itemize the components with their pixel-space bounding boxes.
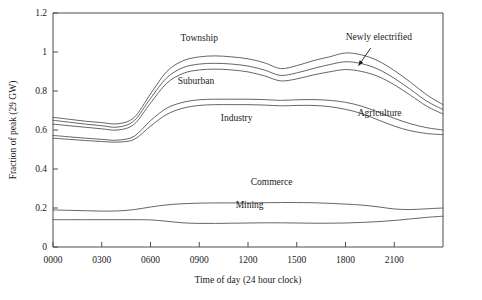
y-tick-label: 0.6	[35, 125, 47, 135]
y-tick-label: 0.2	[35, 203, 47, 213]
x-tick-label: 1500	[287, 255, 306, 265]
x-tick-label: 0300	[92, 255, 111, 265]
series-annotations: TownshipSuburbanIndustryNewly electrifie…	[178, 32, 412, 210]
x-tick-label: 2100	[385, 255, 404, 265]
x-axis-tick-labels: 00000300060009001200150018002100	[44, 255, 405, 265]
y-tick-label: 0.8	[35, 86, 47, 96]
series-label-industry: Industry	[221, 113, 253, 123]
y-tick-label: 0	[42, 242, 47, 252]
series-label-agriculture: Agriculture	[358, 108, 402, 118]
series-lines	[53, 53, 443, 224]
x-tick-label: 1800	[336, 255, 355, 265]
load-profile-chart: 00.20.40.60.811.2 0000030006000900120015…	[0, 0, 482, 300]
leader-arrowhead	[359, 60, 364, 65]
series-label-mining: Mining	[236, 200, 264, 210]
series-label-suburban: Suburban	[178, 76, 215, 86]
x-axis-ticks	[53, 242, 394, 247]
x-tick-label: 1200	[239, 255, 258, 265]
y-axis-tick-labels: 00.20.40.60.811.2	[35, 8, 47, 252]
chart-container: 00.20.40.60.811.2 0000030006000900120015…	[0, 0, 482, 300]
series-line-mining	[53, 216, 443, 223]
y-axis-title: Fraction of peak (29 GW)	[8, 81, 19, 180]
series-label-township: Township	[181, 33, 219, 43]
x-axis-title: Time of day (24 hour clock)	[194, 275, 301, 286]
x-tick-label: 0600	[141, 255, 160, 265]
y-tick-label: 1	[42, 47, 47, 57]
series-label-commerce: Commerce	[251, 177, 293, 187]
x-tick-label: 0900	[190, 255, 209, 265]
x-tick-label: 0000	[44, 255, 63, 265]
y-tick-label: 1.2	[35, 8, 47, 18]
series-label-newly-electrified: Newly electrified	[346, 32, 412, 42]
y-tick-label: 0.4	[35, 164, 47, 174]
y-axis-ticks	[53, 13, 58, 247]
